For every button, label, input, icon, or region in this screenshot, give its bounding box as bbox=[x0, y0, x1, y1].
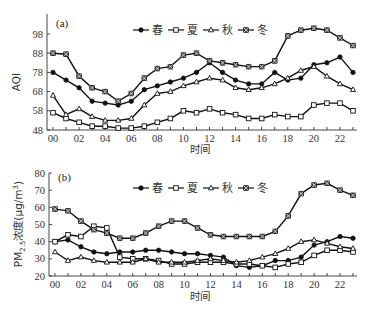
y-tick-label: 40 bbox=[35, 236, 46, 247]
cropped-caption bbox=[0, 302, 365, 312]
legend-item-夏: 夏 bbox=[168, 182, 198, 195]
y-tick-label: 78 bbox=[33, 67, 44, 78]
x-tick-label: 10 bbox=[179, 279, 190, 290]
x-tick-label: 16 bbox=[256, 133, 267, 144]
panel-label-b: (b) bbox=[58, 171, 71, 184]
x-tick-label: 06 bbox=[127, 279, 138, 290]
legend-label: 秋 bbox=[222, 181, 233, 195]
x-tick-label: 20 bbox=[309, 279, 320, 290]
x-tick-label: 08 bbox=[153, 279, 164, 290]
series-春 bbox=[53, 234, 355, 269]
y-tick-label: 20 bbox=[35, 271, 46, 282]
x-tick-label: 04 bbox=[102, 279, 113, 290]
x-tick-label: 18 bbox=[283, 133, 294, 144]
series-春 bbox=[51, 55, 355, 107]
x-tick-label: 22 bbox=[335, 133, 346, 144]
legend-item-秋: 秋 bbox=[203, 181, 233, 195]
x-tick-label: 20 bbox=[309, 133, 320, 144]
legend-item-冬: 冬 bbox=[238, 181, 268, 195]
x-tick-label: 04 bbox=[100, 133, 111, 144]
x-tick-label: 08 bbox=[152, 133, 163, 144]
legend-item-春: 春 bbox=[133, 24, 163, 37]
legend-label: 春 bbox=[152, 24, 163, 37]
x-tick-label: 10 bbox=[178, 133, 189, 144]
pm25-y-label: PM2.5浓度(μg/m3) bbox=[12, 181, 27, 267]
series-冬 bbox=[51, 26, 356, 104]
legend-label: 冬 bbox=[257, 23, 268, 37]
x-tick-label: 00 bbox=[48, 133, 59, 144]
y-tick-label: 50 bbox=[35, 219, 46, 230]
series-秋 bbox=[50, 64, 355, 122]
x-tick-label: 14 bbox=[230, 133, 241, 144]
y-tick-label: 30 bbox=[35, 253, 46, 264]
x-tick-label: 14 bbox=[231, 279, 242, 290]
pm25-x-label: 时间 bbox=[190, 290, 210, 302]
y-tick-label: 68 bbox=[33, 86, 44, 97]
pm25-series bbox=[52, 181, 355, 270]
y-tick-label: 98 bbox=[33, 29, 44, 40]
legend-item-春: 春 bbox=[133, 182, 163, 195]
x-tick-label: 22 bbox=[335, 279, 346, 290]
pm25-chart: 20304050607080000204060810121416182022 春… bbox=[12, 168, 357, 303]
x-tick-label: 12 bbox=[205, 279, 216, 290]
aqi-series bbox=[50, 26, 355, 130]
aqi-x-label: 时间 bbox=[190, 143, 210, 155]
y-tick-label: 80 bbox=[35, 168, 46, 179]
series-秋 bbox=[52, 237, 355, 264]
panel-label-a: (a) bbox=[56, 17, 69, 30]
x-tick-label: 16 bbox=[257, 279, 268, 290]
x-tick-label: 02 bbox=[74, 133, 85, 144]
y-tick-label: 58 bbox=[33, 105, 44, 116]
legend-item-夏: 夏 bbox=[168, 24, 198, 37]
series-夏 bbox=[51, 101, 356, 131]
legend-label: 秋 bbox=[222, 23, 233, 37]
aqi-y-label: AQI bbox=[10, 73, 22, 91]
aqi-legend: 春夏秋冬 bbox=[133, 23, 268, 37]
legend-label: 夏 bbox=[187, 24, 198, 37]
x-tick-label: 00 bbox=[50, 279, 61, 290]
y-tick-label: 88 bbox=[33, 48, 44, 59]
y-tick-label: 48 bbox=[33, 125, 44, 136]
legend-label: 冬 bbox=[257, 181, 268, 195]
x-tick-label: 06 bbox=[126, 133, 137, 144]
legend-label: 夏 bbox=[187, 182, 198, 195]
x-tick-label: 18 bbox=[283, 279, 294, 290]
series-冬 bbox=[53, 181, 356, 241]
x-tick-label: 02 bbox=[76, 279, 87, 290]
y-tick-label: 60 bbox=[35, 202, 46, 213]
legend-item-秋: 秋 bbox=[203, 23, 233, 37]
y-tick-label: 70 bbox=[35, 185, 46, 196]
aqi-chart: 485868788898000204060810121416182022 春夏秋… bbox=[10, 14, 357, 155]
figure: 485868788898000204060810121416182022 春夏秋… bbox=[0, 0, 365, 312]
legend-label: 春 bbox=[152, 182, 163, 195]
legend-item-冬: 冬 bbox=[238, 23, 268, 37]
pm25-legend: 春夏秋冬 bbox=[133, 181, 268, 195]
